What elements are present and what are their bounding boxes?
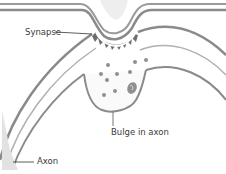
synapse-label: Synapse bbox=[25, 28, 61, 37]
synapse-teeth bbox=[92, 32, 138, 50]
axon-label: Axon bbox=[37, 157, 58, 166]
bulge-label: Bulge in axon bbox=[111, 128, 169, 137]
